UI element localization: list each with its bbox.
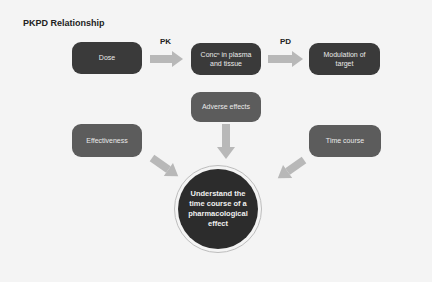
dose-box: Dose bbox=[72, 42, 142, 74]
time-course-label: Time course bbox=[326, 136, 364, 145]
concentration-box: Concⁿ in plasma and tissue bbox=[191, 43, 261, 75]
effectiveness-box: Effectiveness bbox=[72, 124, 142, 157]
pk-label: PK bbox=[160, 37, 171, 46]
adverse-down-arrow-icon bbox=[217, 124, 235, 159]
center-goal-text: Understand the time course of a pharmaco… bbox=[178, 169, 258, 249]
pk-arrow-icon bbox=[150, 51, 183, 67]
adverse-effects-label: Adverse effects bbox=[202, 102, 250, 111]
time-course-box: Time course bbox=[309, 125, 381, 157]
pd-arrow-icon bbox=[268, 51, 303, 67]
center-goal-circle: Understand the time course of a pharmaco… bbox=[174, 165, 262, 253]
pd-label: PD bbox=[280, 37, 291, 46]
effectiveness-arrow-icon bbox=[147, 151, 182, 182]
effectiveness-label: Effectiveness bbox=[86, 136, 128, 145]
concentration-label: Concⁿ in plasma and tissue bbox=[197, 50, 255, 68]
dose-label: Dose bbox=[99, 53, 115, 62]
modulation-label: Modulation of target bbox=[317, 50, 372, 68]
adverse-effects-box: Adverse effects bbox=[191, 92, 261, 122]
time-course-arrow-icon bbox=[273, 153, 308, 184]
modulation-box: Modulation of target bbox=[309, 43, 380, 75]
